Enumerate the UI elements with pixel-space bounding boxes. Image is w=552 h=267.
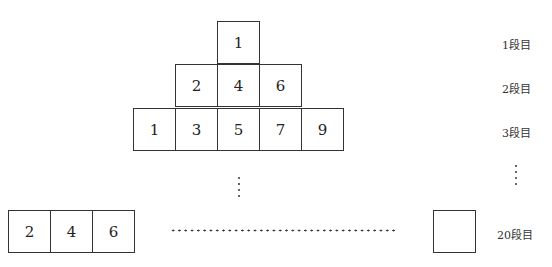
cell-r3-c3: 5 bbox=[217, 108, 260, 151]
cell-r3-c2: 3 bbox=[175, 108, 218, 151]
row-label-20: 20段目 bbox=[497, 226, 533, 242]
row-label-1: 1段目 bbox=[502, 36, 531, 52]
cell-r20-c2: 4 bbox=[50, 210, 93, 253]
cell-r3-c4: 7 bbox=[259, 108, 302, 151]
cell-r20-last bbox=[433, 210, 476, 253]
cell-r2-c3: 6 bbox=[259, 64, 302, 107]
cell-r20-c3: 6 bbox=[92, 210, 135, 253]
cell-r3-c5: 9 bbox=[301, 108, 344, 151]
cell-r2-c2: 4 bbox=[217, 64, 260, 107]
cell-r2-c1: 2 bbox=[175, 64, 218, 107]
cell-r3-c1: 1 bbox=[133, 108, 176, 151]
horizontal-ellipsis bbox=[170, 229, 398, 232]
cell-r1-c1: 1 bbox=[217, 21, 260, 64]
row-label-3: 3段目 bbox=[502, 124, 531, 140]
row-label-2: 2段目 bbox=[502, 80, 531, 96]
vertical-ellipsis-labels bbox=[514, 165, 518, 185]
vertical-ellipsis-center bbox=[237, 177, 241, 197]
cell-r20-c1: 2 bbox=[8, 210, 51, 253]
